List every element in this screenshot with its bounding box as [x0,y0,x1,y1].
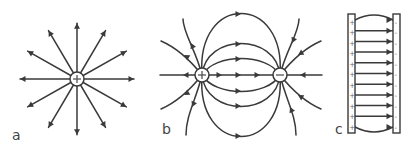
plate-plus-sign: + [349,92,355,100]
electric-field-figure: +-+-+-+-+-+-+-+-+-+-+- a b c [0,0,417,151]
field-line [202,75,280,92]
plate-plus-sign: + [349,61,355,69]
panel-a-label: a [12,127,21,143]
plate-plus-sign: + [349,71,355,79]
panel-a-point-charge [20,23,134,135]
field-arrowhead-icon [236,11,242,17]
field-arrowhead-icon [236,41,242,47]
field-arrowhead-icon [236,88,242,94]
plate-plus-sign: + [349,40,355,48]
field-arrowhead-icon [217,72,223,78]
plate-plus-sign: + [349,50,355,58]
field-arrowhead-icon [387,71,393,77]
field-arrowhead-icon [300,72,306,78]
panel-b-dipole [160,11,322,139]
field-arrowhead-icon [387,113,393,119]
field-arrowhead-icon [387,103,393,109]
plate-plus-sign: + [349,29,355,37]
field-arrowhead-icon [387,38,393,44]
field-arrowhead-icon [387,49,393,55]
field-arrowhead-icon [236,56,242,62]
field-arrowhead-icon [183,72,189,78]
field-line [280,19,299,75]
field-arrowhead-icon [236,72,242,78]
field-arrowhead-icon [387,92,393,98]
plate-plus-sign: + [349,19,355,27]
field-arrowhead-icon [236,103,242,109]
panel-b-label: b [162,121,171,137]
field-arrowhead-icon [387,28,393,34]
plate-plus-sign: + [349,103,355,111]
plate-plus-sign: + [349,113,355,121]
field-line [280,75,321,109]
panel-c-parallel-plates: +-+-+-+-+-+-+-+-+-+-+- [348,14,400,133]
field-arrowhead-icon [20,76,26,82]
field-arrowhead-icon [387,60,393,66]
field-arrowhead-icon [387,81,393,87]
plate-plus-sign: + [349,82,355,90]
field-line [202,59,280,76]
field-arrowhead-icon [236,133,242,139]
panel-c-label: c [335,121,343,137]
field-arrowhead-icon [74,23,80,29]
field-arrowhead-icon [255,72,261,78]
field-arrowhead-icon [74,129,80,135]
plate-plus-sign: + [349,124,355,132]
field-arrowhead-icon [129,76,135,82]
